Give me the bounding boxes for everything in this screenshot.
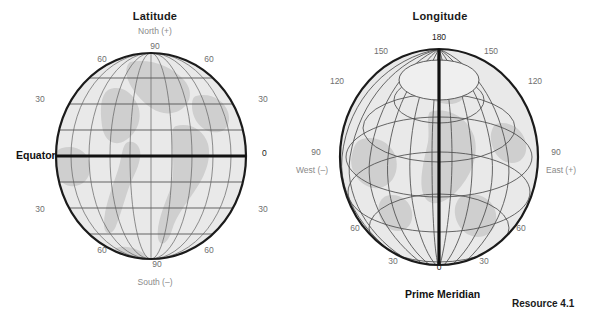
- resource-caption: Resource 4.1: [512, 298, 574, 309]
- longitude-globe-graphic: [0, 0, 594, 315]
- figure-canvas: Latitude North (+) South (–) Equator 90 …: [0, 0, 594, 315]
